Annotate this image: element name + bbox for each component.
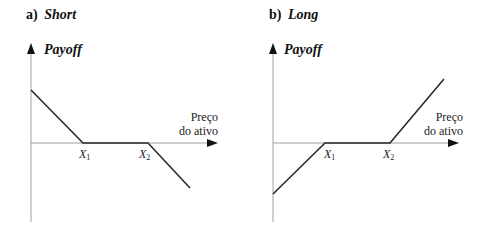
x-axis-arrow-icon xyxy=(207,139,218,147)
payoff-line xyxy=(31,90,190,188)
panel-title-italic: Short xyxy=(44,7,77,22)
strike-x2-label: X2 xyxy=(138,147,150,162)
x-axis-label-line2: do ativo xyxy=(179,124,218,138)
x-axis-label-line1: Preço xyxy=(191,110,218,124)
y-axis-arrow-icon xyxy=(27,43,35,54)
panel-short: a) Short Payoff Preço do ativo X1 X2 xyxy=(26,7,218,222)
panel-title: a) Short xyxy=(26,7,77,23)
payoff-line xyxy=(273,79,444,194)
payoff-diagrams: a) Short Payoff Preço do ativo X1 X2 b) … xyxy=(0,0,488,235)
panel-title-italic: Long xyxy=(287,7,318,22)
panel-long: b) Long Payoff Preço do ativo X1 X2 xyxy=(269,7,463,222)
x-axis-label-line2: do ativo xyxy=(424,124,463,138)
y-axis-label: Payoff xyxy=(284,42,323,57)
panel-title: b) Long xyxy=(269,7,318,23)
y-axis-arrow-icon xyxy=(269,43,277,54)
strike-x1-label: X1 xyxy=(323,147,335,162)
x-axis-label-line1: Preço xyxy=(436,110,463,124)
x-axis-arrow-icon xyxy=(448,139,459,147)
y-axis-label: Payoff xyxy=(44,42,83,57)
panel-title-prefix: a) xyxy=(26,7,38,23)
panel-title-prefix: b) xyxy=(269,7,282,23)
strike-x1-label: X1 xyxy=(78,147,90,162)
strike-x2-label: X2 xyxy=(382,147,394,162)
